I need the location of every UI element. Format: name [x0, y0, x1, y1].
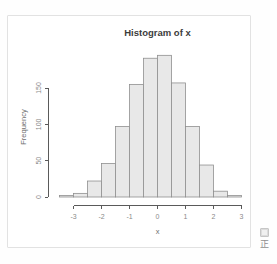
corner-badge: 正 [257, 228, 271, 249]
histogram-bar [228, 196, 242, 197]
histogram-bar [144, 58, 158, 197]
chart-title: Histogram of x [124, 27, 191, 38]
x-tick-label: -3 [70, 213, 76, 220]
histogram-bar [200, 165, 214, 197]
x-axis-label: x [156, 227, 160, 236]
screenshot-root: 050100150-3-2-10123 Histogram of x x Fre… [0, 0, 277, 264]
y-tick-label: 0 [35, 195, 42, 199]
y-tick-label: 100 [35, 118, 42, 130]
histogram-bar [116, 127, 130, 197]
plot-card: 050100150-3-2-10123 Histogram of x x Fre… [7, 15, 251, 248]
y-axis-label: Frequency [19, 109, 28, 145]
x-tick-label: -1 [126, 213, 132, 220]
histogram-bar [74, 193, 88, 197]
corner-text: 正 [257, 239, 271, 249]
histogram-bar [88, 181, 102, 197]
x-tick-label: 2 [212, 213, 216, 220]
histogram-bar [172, 83, 186, 197]
histogram-bar [102, 164, 116, 197]
bars-layer [60, 55, 242, 197]
histogram-bar [60, 196, 74, 197]
x-tick-label: 3 [240, 213, 244, 220]
histogram-bar [186, 127, 200, 197]
histogram-bar [130, 84, 144, 197]
histogram-bar [158, 55, 172, 197]
y-tick-label: 150 [35, 82, 42, 94]
y-tick-label: 50 [35, 157, 42, 165]
histogram-plot: 050100150-3-2-10123 Histogram of x x Fre… [8, 16, 250, 247]
image-placeholder-icon [260, 228, 269, 237]
histogram-bar [214, 191, 228, 197]
x-tick-label: 1 [184, 213, 188, 220]
x-tick-label: -2 [98, 213, 104, 220]
x-tick-label: 0 [156, 213, 160, 220]
